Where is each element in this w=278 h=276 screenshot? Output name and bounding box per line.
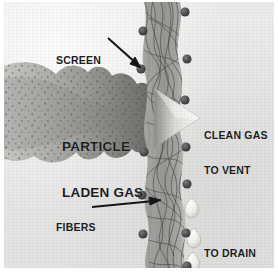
label-clean-gas-to-vent: CLEAN GAS TO VENT xyxy=(204,106,268,200)
label-fibers-text: FIBERS xyxy=(56,222,96,234)
label-to-drain: TO DRAIN xyxy=(204,224,256,268)
rivet xyxy=(181,228,190,237)
screen-leader-arrow xyxy=(108,38,141,68)
rivet xyxy=(138,26,147,35)
label-to-drain-text: TO DRAIN xyxy=(204,248,256,260)
rivet xyxy=(180,7,189,16)
rivet xyxy=(180,95,189,104)
rivet xyxy=(182,54,191,63)
label-screen: SCREEN xyxy=(56,31,101,90)
label-clean-gas-line1: CLEAN GAS xyxy=(204,130,268,142)
label-fibers: FIBERS xyxy=(56,198,96,257)
label-particle-laden-gas-line1: PARTICLE xyxy=(62,139,143,154)
figure-container: SCREEN PARTICLE LADEN GAS CLEAN GAS TO V… xyxy=(0,0,278,276)
label-clean-gas-line2: TO VENT xyxy=(204,165,268,177)
rivet xyxy=(138,229,147,238)
rivet xyxy=(182,179,191,188)
illustration-plate: SCREEN PARTICLE LADEN GAS CLEAN GAS TO V… xyxy=(4,2,274,268)
label-screen-text: SCREEN xyxy=(56,55,101,67)
droplet xyxy=(185,198,199,218)
rivet xyxy=(181,142,190,151)
